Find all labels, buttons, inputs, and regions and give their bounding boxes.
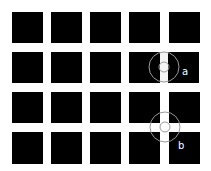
- grid-square-r1-c5: [169, 12, 200, 43]
- grid-square-r1-c3: [90, 12, 121, 43]
- grid-square-r4-c2: [51, 132, 82, 164]
- label-b: b: [178, 140, 184, 151]
- grid-square-r3-c5: [169, 92, 200, 123]
- grid-square-r2-c2: [51, 52, 82, 83]
- grid-square-r3-c1: [12, 92, 43, 123]
- grid-square-r4-c4: [129, 132, 160, 164]
- grid-square-r4-c3: [90, 132, 121, 164]
- label-a: a: [182, 66, 188, 77]
- grid-square-r3-c4: [129, 92, 160, 123]
- grid-square-r1-c1: [12, 12, 43, 43]
- hermann-grid: a b: [0, 0, 211, 171]
- grid-square-r2-c3: [90, 52, 121, 83]
- grid-square-r3-c3: [90, 92, 121, 123]
- grid-square-r3-c2: [51, 92, 82, 123]
- grid-square-r2-c4: [129, 52, 160, 83]
- grid-square-r2-c1: [12, 52, 43, 83]
- grid-square-r1-c4: [129, 12, 160, 43]
- grid-square-r4-c5: [169, 132, 200, 164]
- grid-square-r4-c1: [12, 132, 43, 164]
- grid-square-r1-c2: [51, 12, 82, 43]
- street-strip-a: [160, 52, 168, 83]
